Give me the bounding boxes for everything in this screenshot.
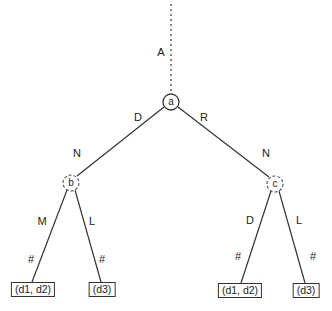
edge-c-leaf3-label-bottom: # (235, 251, 241, 262)
edge-b-leaf2-label-top: L (89, 216, 95, 227)
tree-diagram: a b c A D N R N M # L # D # L # (d1, d2)… (0, 0, 332, 311)
edge-c-leaf3 (241, 191, 271, 283)
edge-c-leaf4-label-bottom: # (310, 251, 316, 262)
leaf-node-4: (d3) (293, 283, 320, 298)
edge-a-c (178, 107, 269, 177)
edge-c-leaf4-label-top: L (296, 215, 302, 226)
edge-c-leaf3-label-top: D (246, 215, 254, 226)
node-b-label: b (68, 178, 74, 188)
edge-a-b (77, 107, 164, 176)
root-edge-label: A (157, 47, 164, 58)
edge-c-leaf4 (279, 191, 305, 283)
edge-a-c-label-bottom: N (262, 148, 270, 159)
edge-b-leaf1-label-bottom: # (28, 254, 34, 265)
leaf-node-2: (d3) (89, 282, 116, 297)
leaf-node-3: (d1, d2) (218, 283, 262, 298)
edge-b-leaf1-label-top: M (37, 216, 46, 227)
edge-b-leaf1 (32, 190, 67, 282)
edge-a-b-label-top: D (134, 112, 142, 123)
node-c-label: c (273, 179, 278, 189)
edge-b-leaf2 (75, 190, 101, 282)
node-a-label: a (168, 97, 174, 107)
edge-a-b-label-bottom: N (73, 148, 81, 159)
edge-b-leaf2-label-bottom: # (99, 254, 105, 265)
edge-a-c-label-top: R (200, 112, 208, 123)
tree-edges (0, 0, 332, 311)
leaf-node-1: (d1, d2) (11, 282, 55, 297)
